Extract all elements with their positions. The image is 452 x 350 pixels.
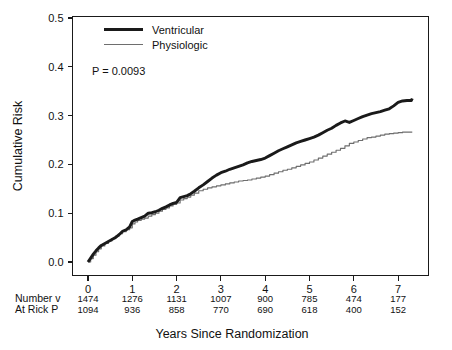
chart-svg: 0.00.10.20.30.40.5 01234567 Cumulative R… [0, 0, 452, 350]
risk-table-cell: 400 [346, 304, 362, 315]
risk-table-cell: 690 [257, 304, 273, 315]
risk-table-cell: 152 [390, 304, 406, 315]
risk-row-label-2: At Rick P [15, 303, 58, 315]
risk-table-cell: 858 [169, 304, 185, 315]
numbers-at-risk-table: Number v At Rick P 147412761131100790078… [15, 292, 406, 315]
risk-table-cell: 618 [302, 304, 318, 315]
legend-label-physiologic: Physiologic [152, 39, 208, 51]
risk-table-cell: 1131 [166, 293, 186, 304]
risk-table-cell: 770 [213, 304, 229, 315]
risk-table-cell: 1094 [77, 304, 98, 315]
risk-table-cell: 474 [346, 293, 362, 304]
series-group [88, 99, 412, 262]
y-tick-label: 0.0 [48, 256, 63, 268]
y-tick-label: 0.4 [48, 61, 63, 73]
y-tick-label: 0.3 [48, 110, 63, 122]
legend-label-ventricular: Ventricular [152, 24, 204, 36]
risk-table-cell: 177 [390, 293, 406, 304]
y-tick-label: 0.2 [48, 158, 63, 170]
plot-frame [73, 17, 429, 276]
legend: Ventricular Physiologic [104, 24, 208, 51]
x-axis-title: Years Since Randomization [155, 327, 308, 341]
risk-table-cell: 1007 [210, 293, 231, 304]
p-value-annotation: P = 0.0093 [92, 65, 145, 77]
curve-physiologic [88, 132, 412, 262]
risk-table-cell: 1276 [122, 293, 143, 304]
x-axis-ticks: 01234567 [85, 276, 401, 295]
y-axis-ticks: 0.00.10.20.30.40.5 [48, 12, 72, 268]
y-tick-label: 0.1 [48, 207, 63, 219]
risk-table-cell: 936 [124, 304, 140, 315]
kaplan-meier-figure: 0.00.10.20.30.40.5 01234567 Cumulative R… [0, 0, 452, 350]
risk-table-cell: 900 [257, 293, 273, 304]
risk-table-cell: 1474 [77, 293, 98, 304]
y-axis-title: Cumulative Risk [11, 100, 25, 191]
y-tick-label: 0.5 [48, 12, 63, 24]
risk-table-cell: 785 [302, 293, 318, 304]
